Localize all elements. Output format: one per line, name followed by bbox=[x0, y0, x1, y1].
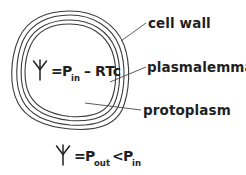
bottom-formula-pout-subscript: out bbox=[94, 158, 110, 168]
inner-formula-p-subscript: in bbox=[71, 73, 80, 83]
figure-root: cell wall plasmalemma protoplasm = P in … bbox=[0, 0, 246, 175]
label-cell-wall: cell wall bbox=[148, 15, 211, 31]
label-plasmalemma: plasmalemma bbox=[147, 59, 246, 75]
label-protoplasm: protoplasm bbox=[143, 102, 231, 118]
inner-formula-term: RTc bbox=[95, 63, 121, 79]
cell-wall-leader-line bbox=[121, 23, 146, 41]
inner-formula-equals: = bbox=[51, 63, 63, 79]
inner-formula-minus: – bbox=[84, 63, 91, 79]
cell-diagram: cell wall plasmalemma protoplasm = P in … bbox=[0, 0, 246, 175]
bottom-formula-equals: = bbox=[74, 148, 86, 164]
bottom-formula: = P out < P in bbox=[57, 145, 141, 168]
psi-glyph-bottom bbox=[57, 145, 70, 165]
bottom-formula-pin-subscript: in bbox=[132, 158, 141, 168]
bottom-formula-less-than: < bbox=[112, 148, 124, 164]
